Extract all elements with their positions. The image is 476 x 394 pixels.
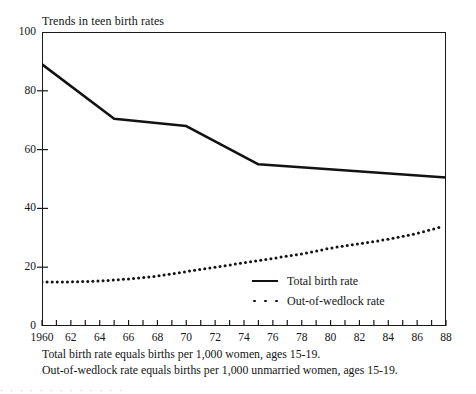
- legend-item-out-of-wedlock-rate: Out-of-wedlock rate: [252, 292, 432, 309]
- x-tick-label-62: 62: [65, 332, 77, 344]
- footnote-total-birth-rate: Total birth rate equals births per 1,000…: [42, 347, 462, 363]
- footnote-out-of-wedlock-rate: Out-of-wedlock rate equals births per 1,…: [42, 363, 462, 379]
- x-tick-label-74: 74: [238, 332, 250, 344]
- chart-legend: Total birth rate Out-of-wedlock rate: [252, 272, 432, 312]
- x-tick-label-84: 84: [383, 332, 395, 344]
- y-tick-label-60: 60: [2, 144, 36, 156]
- x-tick-label-80: 80: [325, 332, 337, 344]
- y-tick-label-80: 80: [2, 85, 36, 97]
- chart-figure: Trends in teen birth rates 100806040200 …: [0, 0, 476, 394]
- series-line-0: [42, 64, 446, 177]
- legend-label-out-of-wedlock-rate: Out-of-wedlock rate: [287, 295, 385, 307]
- x-tick-label-76: 76: [267, 332, 279, 344]
- x-tick-label-86: 86: [411, 332, 423, 344]
- legend-item-total-birth-rate: Total birth rate: [252, 272, 432, 289]
- x-tick-label-88: 88: [440, 332, 452, 344]
- x-tick-label-82: 82: [354, 332, 366, 344]
- chart-title: Trends in teen birth rates: [42, 14, 164, 29]
- chart-footnotes: Total birth rate equals births per 1,000…: [42, 347, 462, 378]
- x-tick-label-70: 70: [181, 332, 193, 344]
- scan-artifact-text: · · · · · · · · · · · · ·: [0, 386, 476, 394]
- legend-label-total-birth-rate: Total birth rate: [287, 275, 358, 287]
- y-tick-label-20: 20: [2, 261, 36, 273]
- legend-dotted-line-icon: [252, 296, 278, 306]
- x-tick-label-68: 68: [152, 332, 164, 344]
- legend-solid-line-icon: [252, 276, 278, 286]
- x-tick-label-78: 78: [296, 332, 308, 344]
- x-tick-label-66: 66: [123, 332, 135, 344]
- y-tick-label-40: 40: [2, 202, 36, 214]
- x-tick-label-64: 64: [94, 332, 106, 344]
- y-tick-label-0: 0: [2, 320, 36, 332]
- y-tick-label-100: 100: [2, 26, 36, 38]
- x-tick-label-72: 72: [209, 332, 221, 344]
- x-tick-label-1960: 1960: [31, 332, 54, 344]
